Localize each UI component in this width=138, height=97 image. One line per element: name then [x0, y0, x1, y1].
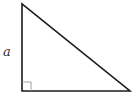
side-label-a: a — [3, 44, 11, 59]
right-triangle-diagram: a — [0, 0, 138, 97]
right-angle-marker — [22, 82, 31, 91]
triangle — [22, 4, 130, 91]
